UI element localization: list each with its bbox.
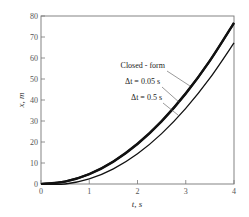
y-axis-label: x, m [16,92,26,108]
y-tick-label: 80 [30,12,38,21]
y-tick-label: 40 [30,96,38,105]
annotation-label: Δt = 0.05 s [125,77,160,86]
annotation-label: Closed - form [121,61,166,70]
y-tick-label: 60 [30,54,38,63]
annotation-label: Δt = 0.5 s [131,93,162,102]
curves [41,23,234,185]
chart: 01020304050607080 01234 Closed - formΔt … [0,0,249,217]
y-tick-label: 20 [30,138,38,147]
y-tick-label: 30 [30,117,38,126]
y-tick-label: 0 [34,180,38,189]
series-line-1 [41,23,234,184]
x-tick-label: 1 [87,187,91,196]
series-line-0 [41,23,234,184]
annotation-leader [162,87,180,103]
x-axis-label: t, s [132,199,143,209]
annotations: Closed - formΔt = 0.05 sΔt = 0.5 s [121,61,190,115]
x-tick-label: 4 [232,187,236,196]
x-tick-label: 2 [136,187,140,196]
y-axis-ticks: 01020304050607080 [30,12,45,189]
y-tick-label: 10 [30,159,38,168]
annotation-leader [167,71,190,86]
x-tick-label: 3 [184,187,188,196]
y-tick-label: 50 [30,75,38,84]
x-tick-label: 0 [39,187,43,196]
x-axis-ticks: 01234 [39,180,236,196]
y-tick-label: 70 [30,33,38,42]
